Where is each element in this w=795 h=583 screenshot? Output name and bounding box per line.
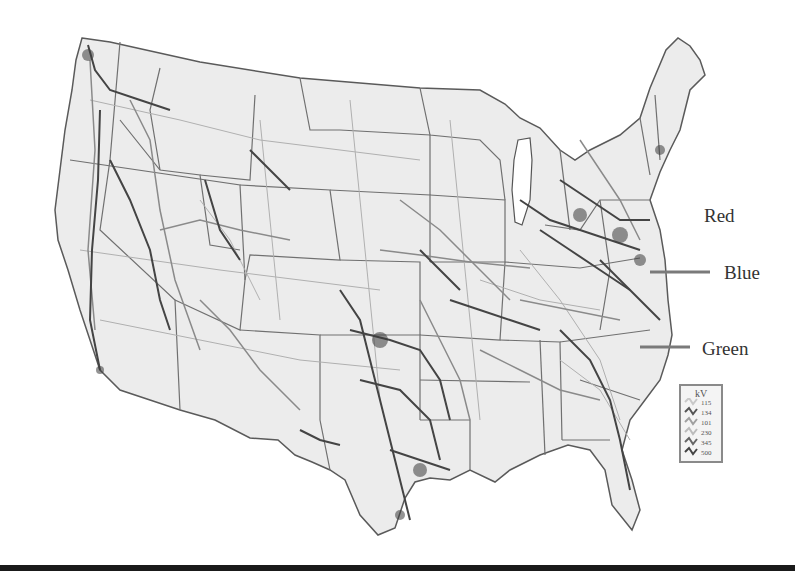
annotation-red: Red: [704, 205, 735, 227]
legend-swatches: [684, 398, 702, 460]
legend-entry-101: 101: [701, 419, 712, 427]
transmission-grid-map: Red Blue Green kV 115 134 101 230 345 50…: [0, 0, 795, 560]
legend-entry-500: 500: [701, 449, 712, 457]
annotation-green: Green: [702, 338, 748, 360]
legend-entry-115: 115: [701, 399, 711, 407]
annotation-blue: Blue: [724, 262, 760, 284]
us-map-graphic: [0, 0, 795, 560]
legend-entry-134: 134: [701, 409, 712, 417]
legend-entry-230: 230: [701, 429, 712, 437]
bottom-divider-rule: [0, 565, 795, 571]
voltage-legend: kV 115 134 101 230 345 500: [679, 384, 723, 463]
legend-entry-345: 345: [701, 439, 712, 447]
